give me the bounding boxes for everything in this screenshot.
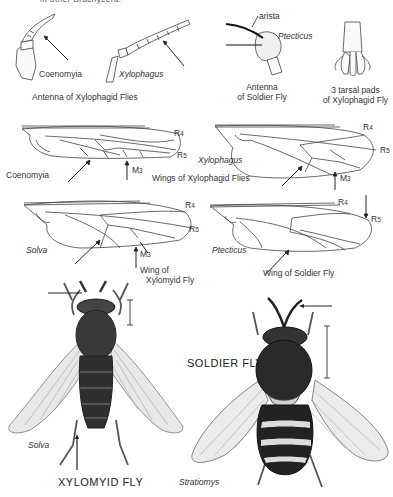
wing-label-ptecticus: Ptecticus	[212, 245, 247, 255]
xylophagus-wing-drawing	[215, 125, 376, 178]
fly-genus-solva: Solva	[28, 440, 49, 450]
caption-wing-xylomyid-line1: Wing of	[140, 265, 169, 275]
caption-wing-xylomyid-line2: Xylomyid Fly	[146, 275, 194, 285]
soldier-antenna-drawing	[226, 16, 282, 75]
caption-tarsal-line1: 3 tarsal pads	[318, 85, 393, 95]
vein-label-r5-ptecticus: R5	[371, 214, 381, 225]
arista-label: arista	[259, 11, 280, 21]
vein-label-r4-ptecticus: R4	[338, 197, 348, 208]
genus-label-coenomyia: Coenomyia	[39, 69, 82, 79]
tarsal-pads-drawing	[335, 22, 370, 76]
soldier-fly-drawing	[192, 298, 388, 487]
wing-label-coenomyia: Coenomyia	[6, 170, 49, 180]
caption-antenna-xylophagid: Antenna of Xylophagid Flies	[32, 92, 138, 102]
vein-label-m3: M3	[132, 165, 143, 176]
vein-label-r5: R5	[177, 150, 187, 161]
vein-label-m3-xylophagus: M3	[340, 173, 351, 184]
caption-wing-soldier: Wing of Soldier Fly	[263, 268, 334, 278]
caption-tarsal-line2: of Xylophagid Fly	[318, 95, 393, 105]
caption-antenna-soldier-line1: Antenna	[222, 82, 302, 92]
vein-label-r4-solva: R4	[185, 200, 195, 211]
vein-label-r5-xylophagus: R5	[380, 145, 390, 156]
genus-label-xylophagus: Xylophagus	[119, 69, 163, 79]
genus-label-ptecticus-antenna: Ptecticus	[278, 31, 313, 41]
vein-label-r4-xylophagus: R4	[363, 122, 373, 133]
coenomyia-wing-drawing	[22, 126, 180, 158]
wing-label-xylophagus: Xylophagus	[198, 155, 242, 165]
solva-wing-drawing	[24, 201, 192, 248]
caption-wings-xylophagid: Wings of Xylophagid Flies	[152, 173, 250, 183]
fly-genus-stratiomys: Stratiomys	[179, 477, 219, 487]
title-xylomyid-fly: XYLOMYID FLY	[58, 477, 143, 487]
vein-label-m3-solva: M3	[140, 249, 151, 260]
vein-label-r5-solva: R5	[189, 224, 199, 235]
title-soldier-fly: SOLDIER FLY	[187, 358, 263, 368]
caption-antenna-soldier-line2: of Soldier Fly	[222, 92, 302, 102]
wing-label-solva: Solva	[26, 245, 47, 255]
vein-label-r4: R4	[174, 128, 184, 139]
